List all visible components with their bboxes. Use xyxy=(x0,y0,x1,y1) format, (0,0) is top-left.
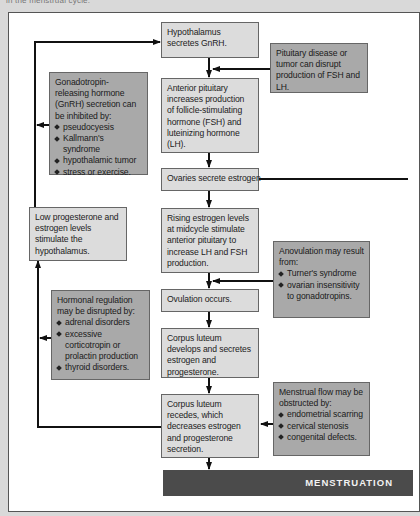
menstrual-flow-list: endometrial scarring cervical stenosis c… xyxy=(279,409,364,443)
gnrh-inhibition-list: pseudocyesis Kallmann's syndrome hypotha… xyxy=(55,122,142,178)
list-item: congenital defects. xyxy=(279,432,364,443)
ovaries-text: Ovaries secrete estrogen xyxy=(167,173,261,183)
anovulation-note: Anovulation may result from: Turner's sy… xyxy=(273,241,370,318)
low-progesterone-note: Low progesterone and estrogen levels sti… xyxy=(29,207,127,261)
list-item: pseudocyesis xyxy=(55,122,142,133)
hormonal-regulation-intro: Hormonal regulation may be disrupted by: xyxy=(57,295,144,317)
hypothalamus-box: Hypothalamus secretes GnRH. xyxy=(161,22,259,58)
list-item: ovarian insensitivity to gonadotropins. xyxy=(279,280,364,302)
gnrh-inhibition-note: Gonadotropin-releasing hormone (GnRH) se… xyxy=(49,72,148,175)
menstrual-flow-note: Menstrual flow may be obstructed by: end… xyxy=(273,382,370,456)
menstruation-bar: MENSTRUATION xyxy=(163,470,413,496)
list-item: excessive corticotropin or prolactin pro… xyxy=(57,329,144,363)
list-item: cervical stenosis xyxy=(279,421,364,432)
list-item: Kallmann's syndrome xyxy=(55,133,142,155)
anovulation-intro: Anovulation may result from: xyxy=(279,246,364,268)
anterior-pituitary-text: Anterior pituitary increases production … xyxy=(167,83,244,149)
low-progesterone-text: Low progesterone and estrogen levels sti… xyxy=(35,212,119,256)
anterior-pituitary-box: Anterior pituitary increases production … xyxy=(161,78,259,153)
ovulation-box: Ovulation occurs. xyxy=(161,289,259,312)
pituitary-disease-note: Pituitary disease or tumor can disrupt p… xyxy=(270,43,368,93)
hormonal-regulation-note: Hormonal regulation may be disrupted by:… xyxy=(51,290,150,380)
rising-estrogen-box: Rising estrogen levels at midcycle stimu… xyxy=(161,208,259,273)
list-item: thyroid disorders. xyxy=(57,362,144,373)
rising-estrogen-text: Rising estrogen levels at midcycle stimu… xyxy=(167,213,249,268)
corpus-luteum-recedes-box: Corpus luteum recedes, which decreases e… xyxy=(161,394,259,458)
ovaries-box: Ovaries secrete estrogen xyxy=(161,168,259,191)
anovulation-list: Turner's syndrome ovarian insensitivity … xyxy=(279,268,364,302)
list-item: stress or exercise. xyxy=(55,167,142,178)
pituitary-disease-text: Pituitary disease or tumor can disrupt p… xyxy=(276,48,360,92)
hormonal-regulation-list: adrenal disorders excessive corticotropi… xyxy=(57,317,144,373)
list-item: Turner's syndrome xyxy=(279,268,364,279)
menstrual-flow-intro: Menstrual flow may be obstructed by: xyxy=(279,387,364,409)
ovulation-text: Ovulation occurs. xyxy=(167,294,232,304)
menstruation-label: MENSTRUATION xyxy=(305,477,393,488)
corpus-luteum-develops-box: Corpus luteum develops and secretes estr… xyxy=(161,328,259,378)
list-item: hypothalamic tumor xyxy=(55,155,142,166)
hypothalamus-text: Hypothalamus secretes GnRH. xyxy=(167,27,227,48)
corpus-luteum-recedes-text: Corpus luteum recedes, which decreases e… xyxy=(167,399,241,454)
corpus-luteum-develops-text: Corpus luteum develops and secretes estr… xyxy=(167,333,251,377)
list-item: endometrial scarring xyxy=(279,409,364,420)
gnrh-inhibition-intro: Gonadotropin-releasing hormone (GnRH) se… xyxy=(55,77,142,122)
list-item: adrenal disorders xyxy=(57,317,144,328)
